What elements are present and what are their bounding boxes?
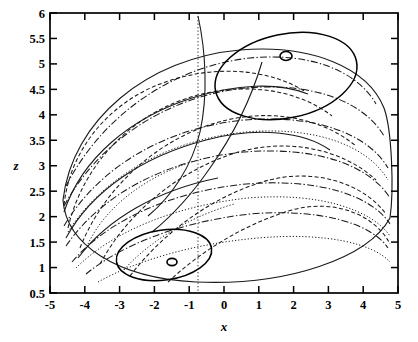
x-tick-label: 3 bbox=[325, 298, 331, 312]
x-tick-label: -4 bbox=[80, 298, 91, 312]
ellipsoid-plot: -5 -4 -3 -2 -1 0 1 2 3 4 5 0.5 1 1.5 2 2… bbox=[0, 0, 418, 342]
x-tick-label: 0 bbox=[221, 298, 227, 312]
x-tick-label: -2 bbox=[149, 298, 159, 312]
y-tick-label: 2 bbox=[39, 210, 45, 224]
y-tick-label: 2.5 bbox=[29, 185, 45, 199]
x-tick-label: 1 bbox=[256, 298, 262, 312]
x-axis-title: x bbox=[220, 319, 228, 334]
y-tick-label: 1 bbox=[39, 261, 45, 275]
y-tick-label: 1.5 bbox=[29, 236, 45, 250]
y-tick-label: 3 bbox=[39, 159, 45, 173]
y-tick-label: 5 bbox=[39, 57, 45, 71]
x-tick-label: 5 bbox=[395, 298, 401, 312]
figure-container: -5 -4 -3 -2 -1 0 1 2 3 4 5 0.5 1 1.5 2 2… bbox=[0, 0, 418, 342]
y-axis-title: z bbox=[12, 158, 19, 173]
x-tick-label: 4 bbox=[360, 298, 367, 312]
y-tick-label: 0.5 bbox=[29, 287, 45, 301]
plot-background bbox=[0, 0, 418, 342]
y-tick-label: 3.5 bbox=[29, 134, 45, 148]
x-tick-label: -5 bbox=[45, 298, 55, 312]
x-tick-label: -3 bbox=[114, 298, 124, 312]
x-tick-label: 2 bbox=[290, 298, 296, 312]
y-tick-label: 6 bbox=[39, 7, 45, 21]
y-tick-label: 5.5 bbox=[29, 32, 45, 46]
y-tick-label: 4 bbox=[39, 108, 46, 122]
y-tick-label: 4.5 bbox=[29, 83, 45, 97]
x-tick-label: -1 bbox=[184, 298, 194, 312]
